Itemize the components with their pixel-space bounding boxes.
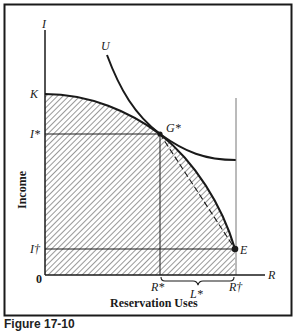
y-axis-symbol: I <box>41 17 47 31</box>
figure-caption: Figure 17-10 <box>4 318 75 330</box>
point-g-star <box>157 131 162 136</box>
x-axis-title: Reservation Uses <box>110 296 198 310</box>
i-star-label: I* <box>29 127 40 141</box>
y-axis-title: Income <box>15 170 29 209</box>
r-star-label: R* <box>150 280 164 294</box>
l-star-brace <box>161 277 234 285</box>
r-dagger-label: R† <box>228 280 243 294</box>
x-axis-symbol: R <box>267 268 276 282</box>
g-star-label: G* <box>166 121 181 135</box>
e-label: E <box>239 243 248 257</box>
i-dagger-label: I† <box>29 242 41 256</box>
k-label: K <box>29 87 39 101</box>
origin-label: 0 <box>36 272 42 286</box>
indifference-curve-label: U <box>101 39 111 53</box>
point-e <box>232 246 239 253</box>
